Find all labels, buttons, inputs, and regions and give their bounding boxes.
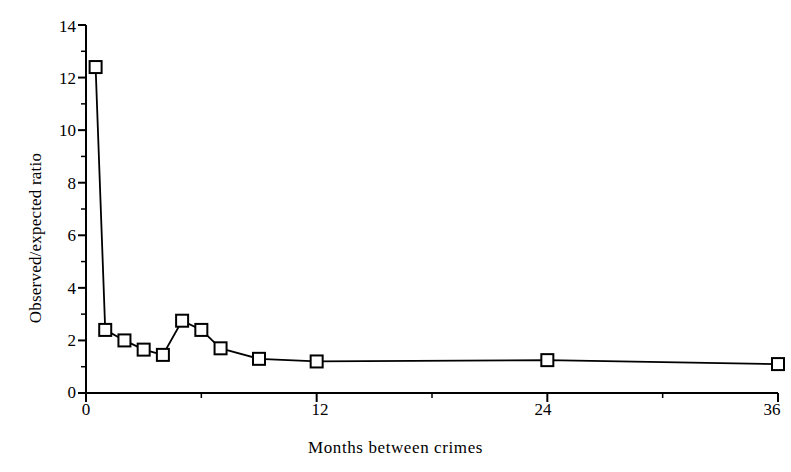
data-point-marker [90, 61, 102, 73]
data-point-marker [99, 324, 111, 336]
data-markers [90, 61, 784, 370]
data-point-marker [215, 342, 227, 354]
data-point-marker [118, 334, 130, 346]
chart-figure: Observed/expected ratio 14 12 10 8 6 4 2… [0, 0, 791, 472]
data-point-marker [772, 358, 784, 370]
data-point-marker [157, 349, 169, 361]
plot-area [0, 0, 791, 472]
data-point-marker [195, 324, 207, 336]
data-line [96, 67, 778, 364]
data-point-marker [541, 354, 553, 366]
data-point-marker [311, 355, 323, 367]
data-point-marker [253, 353, 265, 365]
data-point-marker [138, 344, 150, 356]
data-point-marker [176, 315, 188, 327]
